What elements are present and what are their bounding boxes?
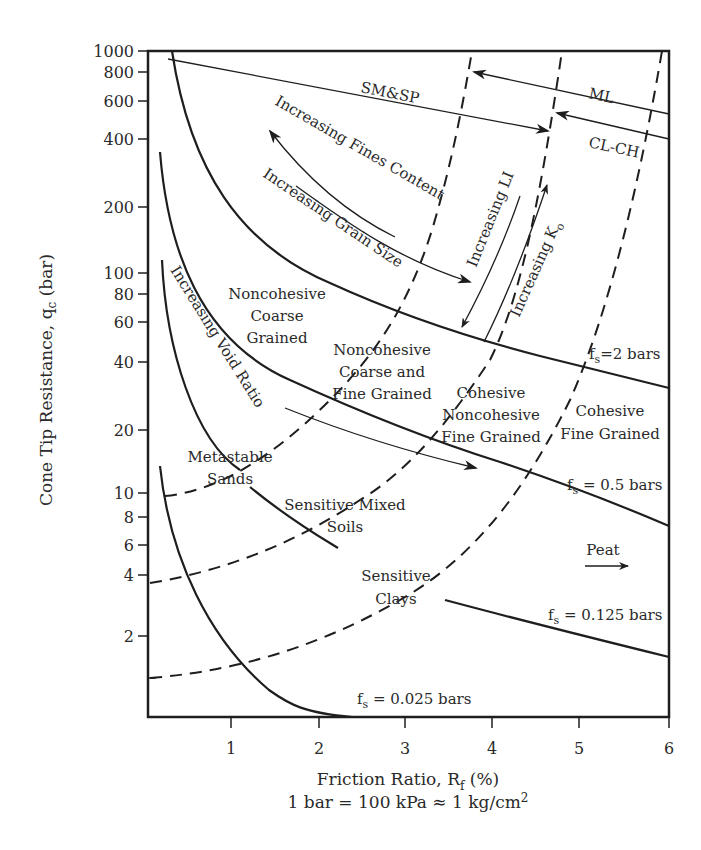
zone-peat: Peat (585, 541, 628, 566)
label-fs-0.5: fs = 0.5 bars (567, 476, 662, 497)
svg-text:Grained: Grained (246, 329, 307, 347)
svg-text:Fine Grained: Fine Grained (441, 428, 541, 446)
y-tick-8: 8 (124, 508, 134, 527)
y-tick-200: 200 (103, 198, 134, 217)
x-axis-title: Friction Ratio, Rf (%) (317, 769, 499, 793)
svg-text:Noncohesive: Noncohesive (228, 285, 326, 303)
svg-text:Fine Grained: Fine Grained (560, 425, 660, 443)
arrow-smsp (168, 59, 548, 131)
zone-cohesive-fine: Cohesive Fine Grained (560, 402, 660, 443)
x-tick-3: 3 (400, 739, 410, 758)
label-fs-0.125: fs = 0.125 bars (548, 606, 662, 627)
y-tick-40: 40 (114, 353, 134, 372)
svg-text:Peat: Peat (586, 541, 619, 559)
x-tick-6: 6 (664, 739, 674, 758)
label-fs-0.025: fs = 0.025 bars (357, 690, 471, 711)
svg-text:Sensitive: Sensitive (361, 567, 431, 585)
unit-note: 1 bar = 100 kPa ≈ 1 kg/cm2 (288, 791, 529, 812)
y-tick-80: 80 (114, 285, 134, 304)
x-tick-5: 5 (574, 739, 584, 758)
zone-noncohesive-coarse-fine: Noncohesive Coarse and Fine Grained (332, 341, 432, 403)
y-tick-10: 10 (114, 484, 134, 503)
label-fs-2: fs=2 bars (589, 345, 661, 366)
x-tick-2: 2 (314, 739, 324, 758)
x-tick-4: 4 (487, 739, 497, 758)
svg-text:Sands: Sands (207, 470, 253, 488)
y-tick-800: 800 (103, 63, 134, 82)
svg-text:Soils: Soils (327, 518, 364, 536)
soil-classification-chart: 1000 800 600 400 200 100 80 60 40 20 10 … (0, 0, 701, 850)
arrow-ml (474, 72, 669, 114)
label-clch: CL-CH (587, 133, 641, 161)
svg-text:Coarse and: Coarse and (339, 363, 426, 381)
svg-text:Fine Grained: Fine Grained (332, 385, 432, 403)
y-tick-400: 400 (103, 130, 134, 149)
zone-cohesive-noncohesive-fine: Cohesive Noncohesive Fine Grained (441, 384, 541, 446)
y-tick-1000: 1000 (93, 42, 134, 61)
svg-text:Clays: Clays (375, 590, 416, 608)
svg-text:Sensitive Mixed: Sensitive Mixed (284, 496, 406, 514)
y-tick-2: 2 (124, 627, 134, 646)
label-increasing-li: Increasing LI (463, 169, 518, 270)
svg-text:Cohesive: Cohesive (457, 384, 526, 402)
zone-noncohesive-coarse: Noncohesive Coarse Grained (228, 285, 326, 347)
label-increasing-ko: Increasing Ko (506, 218, 567, 321)
svg-text:Coarse: Coarse (250, 307, 303, 325)
svg-text:Noncohesive: Noncohesive (333, 341, 431, 359)
zone-sensitive-mixed: Sensitive Mixed Soils (284, 496, 406, 536)
x-tick-1: 1 (226, 739, 236, 758)
y-axis: 1000 800 600 400 200 100 80 60 40 20 10 … (93, 42, 156, 678)
svg-text:Metastable: Metastable (187, 448, 272, 466)
y-tick-6: 6 (124, 536, 134, 555)
y-tick-600: 600 (103, 92, 134, 111)
label-ml: ML (587, 84, 616, 107)
svg-text:Noncohesive: Noncohesive (442, 406, 540, 424)
y-tick-60: 60 (114, 313, 134, 332)
y-tick-4: 4 (124, 566, 134, 585)
y-tick-20: 20 (114, 421, 134, 440)
y-axis-title: Cone Tip Resistance, qc (bar) (36, 254, 59, 506)
svg-text:Cohesive: Cohesive (576, 402, 645, 420)
zone-metastable-sands: Metastable Sands (187, 448, 272, 488)
label-smsp: SM&SP (359, 78, 421, 107)
y-tick-100: 100 (103, 264, 134, 283)
arrow-clch (557, 113, 669, 139)
x-axis: 1 2 3 4 5 6 (226, 717, 674, 758)
